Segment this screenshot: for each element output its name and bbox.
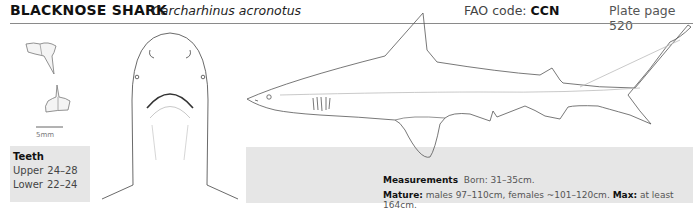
- shark-lateral-body-icon: [247, 13, 691, 157]
- measurements-title: Measurements: [383, 175, 458, 185]
- illustrations: [0, 0, 697, 209]
- lower-tooth-icon: [45, 85, 70, 112]
- born-value: 31–35cm.: [491, 175, 535, 185]
- mature-label: Mature:: [383, 190, 423, 200]
- measurements-line-2: Mature: males 97–110cm, females ~101–120…: [383, 190, 697, 209]
- measurements-line-1: Measurements Born: 31–35cm.: [383, 175, 535, 185]
- upper-tooth-icon: [26, 43, 56, 74]
- max-label: Max:: [613, 190, 637, 200]
- mature-value: males 97–110cm, females ~101–120cm.: [426, 190, 610, 200]
- scale-label: 5mm: [36, 131, 54, 139]
- shark-ventral-head-icon: [102, 33, 238, 199]
- born-label: Born:: [464, 175, 488, 185]
